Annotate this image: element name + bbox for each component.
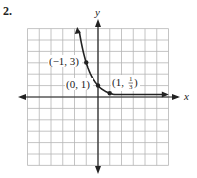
point-1-third bbox=[108, 91, 112, 95]
x-axis-label: x bbox=[183, 90, 189, 102]
graph: x y (−1, 3) (0, 1) (1, 1 3 ) bbox=[0, 0, 197, 178]
point-0-1 bbox=[96, 83, 100, 87]
svg-text:): ) bbox=[134, 76, 138, 89]
y-axis-label: y bbox=[94, 6, 100, 18]
label-point-0-1: (0, 1) bbox=[66, 78, 90, 91]
curve-arrow-up bbox=[75, 27, 81, 34]
svg-text:3: 3 bbox=[129, 83, 133, 91]
svg-text:1: 1 bbox=[129, 75, 133, 83]
label-point-neg1-3: (−1, 3) bbox=[49, 55, 79, 68]
svg-text:(1,: (1, bbox=[112, 76, 124, 89]
point-neg1-3 bbox=[84, 60, 88, 64]
